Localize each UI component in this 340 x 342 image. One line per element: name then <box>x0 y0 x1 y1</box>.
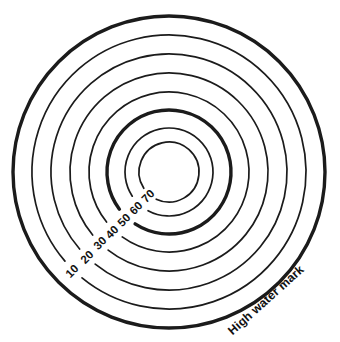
high-water-mark-label: High water mark <box>225 262 307 337</box>
contour-map-svg: 10203040506070 High water mark <box>0 0 340 342</box>
contour-diagram-canvas: 10203040506070 High water mark <box>0 0 340 342</box>
contour-labels-group: 10203040506070 <box>63 187 157 280</box>
contour-label-60: 60 <box>127 199 145 217</box>
high-water-mark-annotation: High water mark <box>225 262 307 337</box>
contour-label-40: 40 <box>103 223 121 241</box>
contour-label-20: 20 <box>78 248 96 266</box>
contour-label-10: 10 <box>63 262 81 280</box>
contour-label-50: 50 <box>115 211 133 229</box>
contour-label-70: 70 <box>139 187 157 205</box>
